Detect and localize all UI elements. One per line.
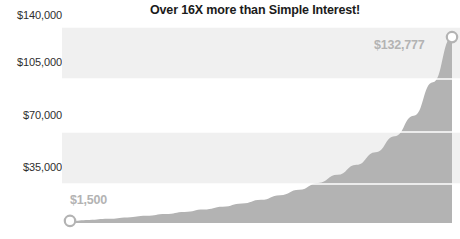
y-axis-tick-105000: $105,000 [0, 56, 62, 68]
area-series-fill [70, 37, 452, 223]
y-axis-tick-35000: $35,000 [0, 161, 62, 173]
y-axis-tick-140000: $140,000 [0, 9, 62, 21]
end-point-marker [447, 32, 457, 42]
start-point-marker [65, 216, 75, 226]
area-series-svg [62, 0, 460, 239]
start-point-label: $1,500 [70, 193, 107, 207]
compound-interest-chart: Over 16X more than Simple Interest! $140… [0, 0, 460, 239]
plot-area: $132,777 $1,500 [62, 0, 460, 239]
end-point-label: $132,777 [374, 38, 425, 52]
y-axis-tick-70000: $70,000 [0, 109, 62, 121]
